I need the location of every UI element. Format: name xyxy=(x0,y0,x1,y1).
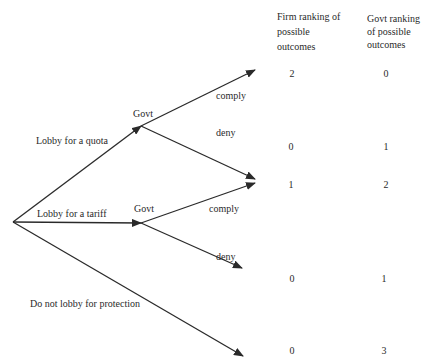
outcome-4-firm: 0 xyxy=(287,273,297,285)
node-label-govt-1: Govt xyxy=(133,108,153,120)
outcome-3-govt: 2 xyxy=(381,179,391,191)
header-firm-ranking: Firm ranking of possible outcomes xyxy=(277,9,347,54)
branch-label-govt1-comply: comply xyxy=(216,90,246,102)
branch-label-govt2-deny: deny xyxy=(216,251,235,263)
outcome-1-firm: 2 xyxy=(287,68,297,80)
outcome-1-govt: 0 xyxy=(381,68,391,80)
edge-no-lobby xyxy=(13,222,243,356)
branch-label-govt1-deny: deny xyxy=(216,127,235,139)
branch-label-lobby-quota: Lobby for a quota xyxy=(36,135,108,147)
node-label-govt-2: Govt xyxy=(134,203,154,215)
edge-lobby-tariff xyxy=(13,222,141,223)
outcome-3-firm: 1 xyxy=(286,179,296,191)
outcome-2-firm: 0 xyxy=(286,141,296,153)
outcome-4-govt: 1 xyxy=(379,273,389,285)
edge-govt1-deny xyxy=(141,126,255,179)
outcome-5-govt: 3 xyxy=(379,345,389,357)
outcome-2-govt: 1 xyxy=(381,141,391,153)
branch-label-govt2-comply: comply xyxy=(209,203,239,215)
branch-label-no-lobby: Do not lobby for protection xyxy=(30,298,140,310)
outcome-5-firm: 0 xyxy=(287,345,297,357)
branch-label-lobby-tariff: Lobby for a tariff xyxy=(37,208,107,220)
header-govt-ranking: Govt ranking of possible outcomes xyxy=(367,12,428,51)
